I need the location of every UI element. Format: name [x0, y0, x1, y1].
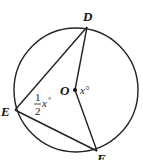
- label-O: O: [60, 83, 70, 98]
- segment-OD: [75, 27, 87, 90]
- inscribed-angle-label: 1 2 x °: [34, 91, 51, 117]
- inscribed-var: x: [41, 97, 47, 109]
- circle-diagram: D E F O x° 1 2 x °: [0, 0, 143, 160]
- central-angle-label: x°: [79, 84, 90, 96]
- center-point: [73, 88, 77, 92]
- label-D: D: [82, 9, 93, 24]
- fraction-numerator: 1: [35, 91, 41, 103]
- label-F: F: [96, 151, 106, 160]
- inscribed-degree: °: [48, 96, 51, 105]
- fraction-denominator: 2: [35, 105, 41, 117]
- label-E: E: [0, 104, 10, 119]
